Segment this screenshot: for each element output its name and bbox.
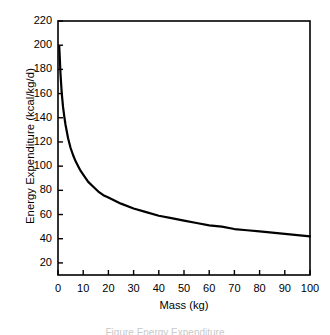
y-tick-label: 100 [6, 160, 52, 171]
y-tick-label: 220 [6, 15, 52, 26]
y-tick-label: 120 [6, 136, 52, 147]
plot-frame [58, 21, 310, 275]
y-tick-label: 140 [6, 112, 52, 123]
y-tick-label: 80 [6, 184, 52, 195]
y-tick-label: 180 [6, 63, 52, 74]
y-tick-label: 160 [6, 88, 52, 99]
figure-container: Energy Expenditure (kcal/kg/d) Mass (kg)… [0, 0, 330, 335]
y-tick-label: 20 [6, 257, 52, 268]
x-tick-label: 100 [290, 283, 330, 294]
x-axis-title: Mass (kg) [58, 299, 310, 311]
y-tick-label: 60 [6, 209, 52, 220]
clipped-caption: Figure Energy Expenditure [0, 327, 330, 335]
y-tick-label: 40 [6, 233, 52, 244]
y-tick-label: 200 [6, 39, 52, 50]
